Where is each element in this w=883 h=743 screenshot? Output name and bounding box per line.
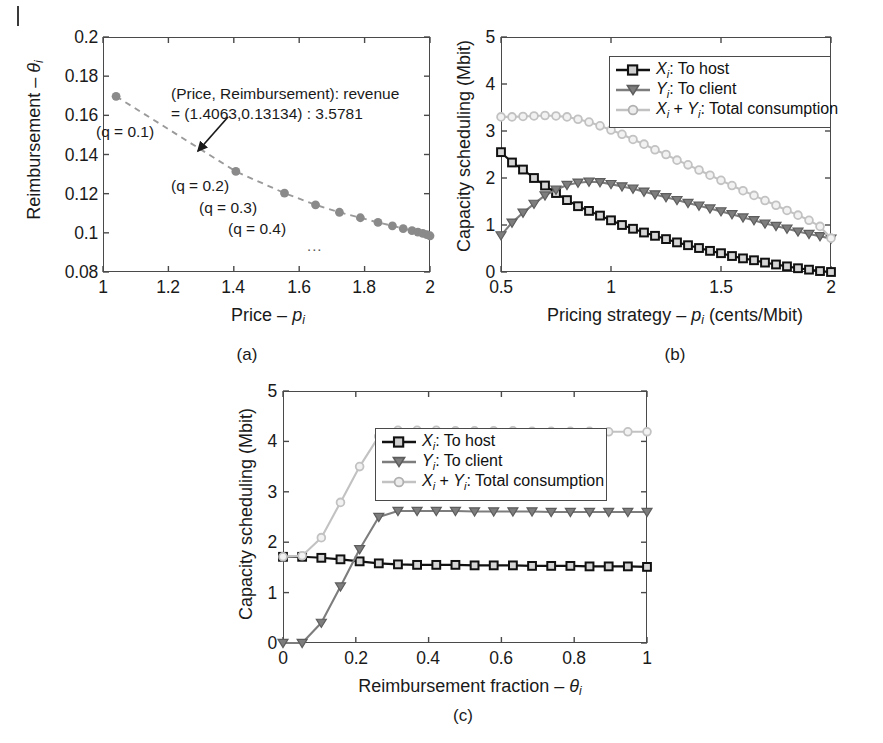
panel-c-xtick-0.2: 0.2 xyxy=(336,648,376,669)
panel-c-legend-item-y: Yi: To client xyxy=(381,452,599,472)
legend-sample-triangle-icon xyxy=(615,82,651,98)
panel-a-label-q01: (q = 0.1) xyxy=(96,123,154,141)
panel-c-legend-label-y: Yi: To client xyxy=(422,452,502,472)
panel-c-legend-item-total: Xi + Yi: Total consumption xyxy=(381,472,599,492)
panel-c-caption: (c) xyxy=(438,706,488,726)
panel-c-xaxis-title-symbol: θ xyxy=(569,676,579,696)
panel-c-xtick-0.4: 0.4 xyxy=(408,648,448,669)
legend-sample-triangle-icon xyxy=(381,454,417,470)
panel-a-yaxis-title: Reimbursement – θi xyxy=(24,15,46,265)
panel-a-xaxis-title-prefix: Price – xyxy=(231,305,292,325)
panel-b-yaxis-title: Capacity scheduling (Mbit) xyxy=(454,24,475,268)
legend-sample-circle-icon xyxy=(615,102,651,118)
panel-a-yaxis-title-symbol: θ xyxy=(24,63,44,73)
panel-c-xaxis-title: Reimbursement fraction – θi xyxy=(330,676,610,698)
panel-c: 5 4 3 2 1 0 0 0.2 0.4 0.6 0.8 1 Reimburs… xyxy=(220,370,680,743)
panel-a-yaxis-title-sub: i xyxy=(32,60,46,63)
panel-b-xtick-2: 2 xyxy=(811,277,851,298)
panel-b-xtick-1.5: 1.5 xyxy=(701,277,741,298)
panel-c-legend-label-total: Xi + Yi: Total consumption xyxy=(422,472,604,492)
panel-c-legend-label-x: Xi: To host xyxy=(422,432,495,452)
panel-a-caption: (a) xyxy=(222,345,272,365)
panel-b-xaxis-title-symbol: p xyxy=(691,305,701,325)
panel-b-xaxis-title-suffix: (cents/Mbit) xyxy=(704,305,803,325)
panel-b-legend-label-total: Xi + Yi: Total consumption xyxy=(656,100,838,120)
panel-a-xaxis-title-sub: i xyxy=(302,313,305,327)
panel-b-legend: Xi: To host Yi: To client Xi + Yi: Total… xyxy=(609,56,831,128)
panel-a-xaxis-title: Price – pi xyxy=(163,305,373,327)
panel-a-label-q04: (q = 0.4) xyxy=(228,220,286,238)
panel-b-legend-item-total: Xi + Yi: Total consumption xyxy=(615,100,823,120)
panel-a: 0.2 0.18 0.16 0.14 0.12 0.1 0.08 1 1.2 1… xyxy=(0,0,445,350)
panel-a-xtick-1.6: 1.6 xyxy=(279,277,319,298)
panel-a-yaxis-title-prefix: Reimbursement – xyxy=(24,73,44,220)
panel-a-xtick-2: 2 xyxy=(410,277,450,298)
panel-b-legend-label-y: Yi: To client xyxy=(656,80,736,100)
panel-a-ellipsis: ... xyxy=(307,237,323,254)
panel-a-xtick-1: 1 xyxy=(83,277,123,298)
panel-a-annotation-arrow xyxy=(190,115,250,167)
panel-b-caption: (b) xyxy=(650,345,700,365)
panel-b-xtick-1: 1 xyxy=(591,277,631,298)
panel-a-xtick-1.2: 1.2 xyxy=(148,277,188,298)
panel-c-xtick-0: 0 xyxy=(263,648,303,669)
panel-c-xaxis-title-sub: i xyxy=(579,684,582,698)
panel-c-yaxis-title: Capacity scheduling (Mbit) xyxy=(236,388,257,640)
panel-b-xtick-0.5: 0.5 xyxy=(481,277,521,298)
panel-c-xtick-0.8: 0.8 xyxy=(554,648,594,669)
legend-sample-square-icon xyxy=(615,62,651,78)
panel-c-xtick-1: 1 xyxy=(627,648,667,669)
panel-c-xaxis-title-prefix: Reimbursement fraction – xyxy=(358,676,569,696)
legend-sample-circle-icon xyxy=(381,474,417,490)
panel-c-legend-item-x: Xi: To host xyxy=(381,432,599,452)
legend-sample-square-icon xyxy=(381,434,417,450)
panel-b: 5 4 3 2 1 0 0.5 1 1.5 2 Pricing strategy… xyxy=(445,0,883,350)
panel-c-legend: Xi: To host Yi: To client Xi + Yi: Total… xyxy=(375,428,607,501)
panel-b-legend-label-x: Xi: To host xyxy=(656,60,729,80)
panel-a-label-q02: (q = 0.2) xyxy=(171,177,229,195)
panel-a-xtick-1.4: 1.4 xyxy=(213,277,253,298)
panel-a-xtick-1.8: 1.8 xyxy=(344,277,384,298)
panel-b-xaxis-title-prefix: Pricing strategy – xyxy=(547,305,691,325)
panel-b-legend-item-y: Yi: To client xyxy=(615,80,823,100)
panel-a-xaxis-title-symbol: p xyxy=(292,305,302,325)
panel-a-annotation-line1: (Price, Reimbursement): revenue xyxy=(171,84,399,104)
panel-a-label-q03: (q = 0.3) xyxy=(199,199,257,217)
panel-b-legend-item-x: Xi: To host xyxy=(615,60,823,80)
panel-c-xtick-0.6: 0.6 xyxy=(481,648,521,669)
panel-b-xaxis-title: Pricing strategy – pi (cents/Mbit) xyxy=(545,305,805,327)
